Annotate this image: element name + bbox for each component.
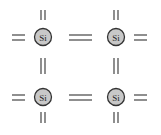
atom-label: Si (39, 93, 47, 103)
bond-top-right-up (114, 10, 118, 20)
atom-si-top-right: Si (108, 29, 125, 46)
atom-si-bottom-right: Si (108, 89, 125, 106)
bond-bottom-left-down (41, 112, 45, 123)
bond-bottom-horizontal (69, 95, 92, 100)
silicon-lattice-diagram: Si Si Si Si (0, 0, 161, 135)
bond-top-horizontal (69, 35, 92, 40)
bond-bottom-right-down (114, 112, 118, 123)
bond-bottom-left-left (12, 95, 25, 100)
atom-si-top-left: Si (35, 29, 52, 46)
bond-left-vertical (41, 58, 45, 74)
atom-si-bottom-left: Si (35, 89, 52, 106)
atom-label: Si (39, 33, 47, 43)
bond-top-right-right (134, 35, 147, 40)
bond-top-left-up (41, 10, 45, 20)
bond-top-left-left (12, 35, 25, 40)
bond-bottom-right-right (134, 95, 147, 100)
atom-label: Si (112, 33, 120, 43)
atom-label: Si (112, 93, 120, 103)
bonds (12, 10, 147, 123)
bond-right-vertical (114, 58, 118, 74)
